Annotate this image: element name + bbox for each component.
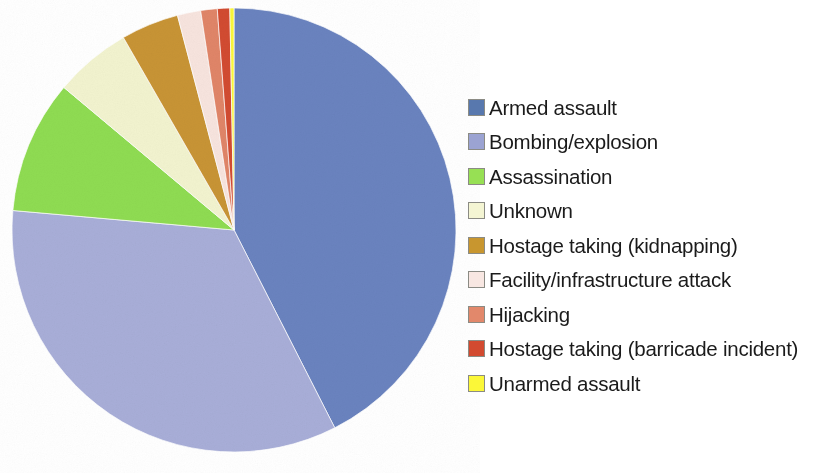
- legend-item[interactable]: Hostage taking (kidnapping): [468, 228, 820, 263]
- legend-color-swatch: [468, 168, 485, 185]
- legend-color-swatch: [468, 237, 485, 254]
- legend-item-label: Armed assault: [489, 97, 617, 118]
- legend-item[interactable]: Bombing/explosion: [468, 125, 820, 160]
- legend-item-label: Unknown: [489, 200, 573, 221]
- legend-item[interactable]: Facility/infrastructure attack: [468, 263, 820, 298]
- legend-item[interactable]: Assassination: [468, 159, 820, 194]
- pie-chart-figure: Armed assaultBombing/explosionAssassinat…: [0, 0, 823, 473]
- legend-item-label: Assassination: [489, 166, 612, 187]
- legend-item-label: Hostage taking (barricade incident): [489, 338, 798, 359]
- legend-color-swatch: [468, 306, 485, 323]
- chart-legend: Armed assaultBombing/explosionAssassinat…: [468, 90, 820, 401]
- legend-item[interactable]: Hijacking: [468, 297, 820, 332]
- pie-chart-plot-area: [0, 0, 480, 473]
- legend-item-label: Bombing/explosion: [489, 131, 658, 152]
- legend-color-swatch: [468, 202, 485, 219]
- legend-item-label: Facility/infrastructure attack: [489, 269, 731, 290]
- legend-item[interactable]: Unknown: [468, 194, 820, 229]
- legend-item-label: Unarmed assault: [489, 373, 640, 394]
- legend-color-swatch: [468, 375, 485, 392]
- legend-color-swatch: [468, 271, 485, 288]
- legend-item-label: Hijacking: [489, 304, 570, 325]
- legend-item-label: Hostage taking (kidnapping): [489, 235, 738, 256]
- legend-color-swatch: [468, 99, 485, 116]
- legend-item[interactable]: Unarmed assault: [468, 366, 820, 401]
- legend-item[interactable]: Hostage taking (barricade incident): [468, 332, 820, 367]
- pie-slices-group: [12, 8, 456, 452]
- legend-color-swatch: [468, 133, 485, 150]
- legend-item[interactable]: Armed assault: [468, 90, 820, 125]
- legend-color-swatch: [468, 340, 485, 357]
- pie-chart-svg: [0, 0, 480, 473]
